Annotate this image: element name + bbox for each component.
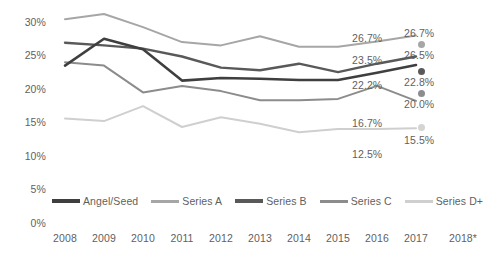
- legend-swatch-icon: [52, 199, 80, 203]
- x-axis-tick: 2017: [404, 232, 428, 244]
- legend-item-series-b[interactable]: Series B: [235, 195, 306, 207]
- y-axis-tick: 25%: [25, 50, 46, 61]
- legend-label: Series A: [182, 195, 222, 207]
- legend-item-series-c[interactable]: Series C: [320, 195, 392, 207]
- x-axis-tick: 2008: [53, 232, 77, 244]
- legend-swatch-icon: [151, 200, 179, 203]
- y-axis-tick: 15%: [25, 117, 46, 128]
- x-axis-tick: 2016: [365, 232, 389, 244]
- x-axis-tick: 2013: [248, 232, 272, 244]
- legend-swatch-icon: [405, 200, 433, 203]
- x-axis-tick: 2010: [131, 232, 155, 244]
- projection-label-series-b: 26.5%: [404, 49, 460, 61]
- end-label-series-d: 12.5%: [352, 148, 382, 160]
- legend-label: Series D+: [436, 195, 483, 207]
- end-label-series-c: 16.7%: [352, 117, 382, 129]
- y-axis-tick: 10%: [25, 151, 46, 162]
- y-axis-tick: 30%: [25, 17, 46, 28]
- legend-swatch-icon: [320, 200, 348, 203]
- x-axis-tick: 2012: [209, 232, 233, 244]
- legend-swatch-icon: [235, 199, 263, 203]
- chart-legend: Angel/Seed Series A Series B Series C Se…: [52, 192, 464, 210]
- y-axis-tick: 0%: [31, 218, 46, 229]
- y-axis-tick: 20%: [25, 84, 46, 95]
- end-label-series-b: 23.5%: [352, 54, 382, 66]
- legend-item-series-a[interactable]: Series A: [151, 195, 222, 207]
- y-axis: 30% 25% 20% 15% 10% 5% 0%: [0, 0, 52, 232]
- projection-marker-series-b: [418, 68, 425, 75]
- end-label-series-a: 26.7%: [352, 32, 382, 44]
- legend-label: Angel/Seed: [83, 195, 138, 207]
- projection-label-series-c: 20.0%: [404, 98, 460, 110]
- x-axis-tick: 2018*: [449, 232, 477, 244]
- legend-item-series-d[interactable]: Series D+: [405, 195, 483, 207]
- x-axis: 2008 2009 2010 2011 2012 2013 2014 2015 …: [52, 232, 464, 256]
- projection-marker-series-a: [418, 41, 425, 48]
- projection-label-angel-seed: 22.8%: [404, 76, 460, 88]
- legend-item-angel-seed[interactable]: Angel/Seed: [52, 195, 138, 207]
- projection-label-series-a: 26.7%: [404, 27, 460, 39]
- projection-marker-series-c: [418, 124, 425, 131]
- projection-column-2018: 26.7% 26.5% 22.8% 20.0% 15.5%: [404, 14, 464, 210]
- legend-label: Series B: [266, 195, 306, 207]
- y-axis-tick: 5%: [31, 184, 46, 195]
- x-axis-tick: 2014: [287, 232, 311, 244]
- projection-marker-angel-seed: [418, 90, 425, 97]
- projection-label-series-d: 15.5%: [404, 134, 460, 146]
- x-axis-tick: 2011: [171, 232, 194, 244]
- legend-label: Series C: [351, 195, 392, 207]
- end-label-angel-seed: 22.2%: [352, 79, 382, 91]
- x-axis-tick: 2009: [92, 232, 116, 244]
- x-axis-tick: 2015: [326, 232, 350, 244]
